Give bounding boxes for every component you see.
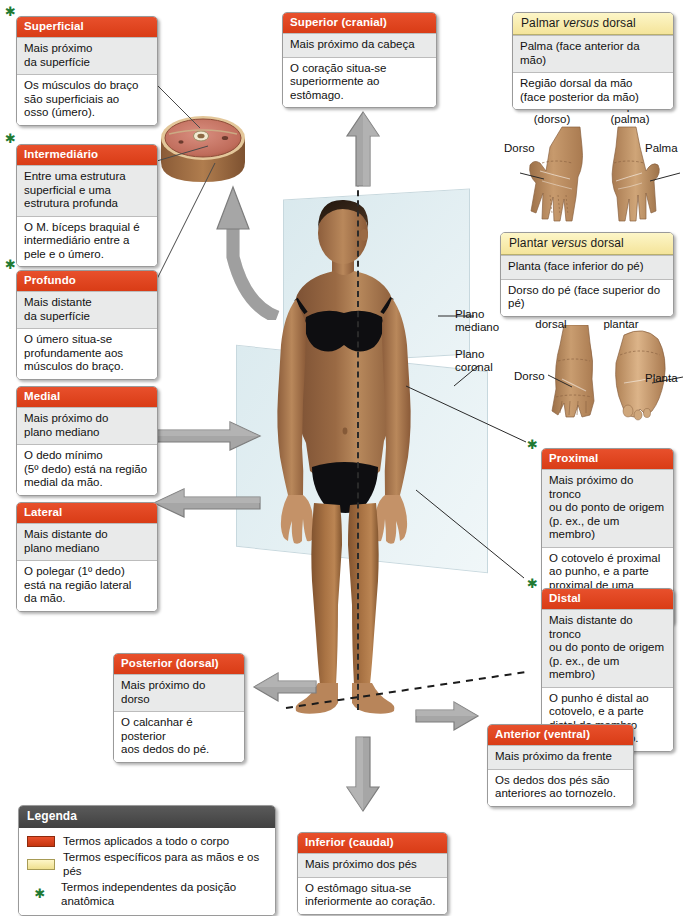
term-row-dorso-pe: Dorso do pé (face superior do pé): [501, 279, 673, 316]
term-box-profundo: Profundo Mais distante da superfície O ú…: [16, 270, 158, 380]
yellow-swatch-icon: [27, 859, 55, 870]
hand-illustrations: [520, 125, 680, 223]
arrow-superior: [345, 110, 381, 188]
term-row-palma: Palma (face anterior da mão): [513, 35, 673, 72]
body-photograph: [262, 195, 422, 725]
label-dorso-pe: Dorso: [514, 370, 545, 383]
term-example-intermediario: O M. bíceps braquial é intermediário ent…: [17, 216, 157, 267]
term-box-posterior: Posterior (dorsal) Mais próximo do dorso…: [113, 653, 245, 763]
term-definition-superior: Mais próximo da cabeça: [283, 33, 436, 57]
term-example-anterior: Os dedos dos pés são anteriores ao torno…: [488, 769, 633, 806]
legend-item-whole-body: Termos aplicados a todo o corpo: [21, 833, 269, 849]
term-title-superficial: Superficial: [17, 17, 157, 37]
palmar-title-post: dorsal: [599, 16, 636, 30]
median-plane-dashed-line: [357, 150, 359, 710]
term-box-anterior: Anterior (ventral) Mais próximo da frent…: [487, 724, 634, 807]
term-title-intermediario: Intermediário: [17, 145, 157, 165]
term-definition-posterior: Mais próximo do dorso: [114, 674, 244, 711]
term-example-superior: O coração situa-se superiormente ao estô…: [283, 57, 436, 108]
legend-label-whole-body: Termos aplicados a todo o corpo: [63, 834, 229, 848]
term-title-medial: Medial: [17, 387, 157, 407]
term-box-superficial: Superficial Mais próximo da superfície O…: [16, 16, 158, 126]
label-dorso-mao: Dorso: [504, 142, 535, 155]
legend-label-hands-feet: Termos específicos para as mãos e os pés: [63, 850, 269, 878]
term-title-inferior: Inferior (caudal): [298, 833, 447, 853]
term-box-medial: Medial Mais próximo do plano mediano O d…: [16, 386, 158, 496]
term-example-inferior: O estômago situa-se inferiormente ao cor…: [298, 877, 447, 914]
term-box-lateral: Lateral Mais distante do plano mediano O…: [16, 502, 158, 612]
term-title-proximal: Proximal: [542, 449, 673, 469]
plantar-title-pre: Plantar: [509, 236, 551, 250]
term-box-palmar-versus-dorsal: Palmar versus dorsal Palma (face anterio…: [512, 12, 674, 110]
term-example-medial: O dedo mínimo (5º dedo) está na região m…: [17, 444, 157, 495]
arrow-medial: [152, 420, 262, 454]
red-swatch-icon: [27, 836, 55, 847]
label-planta-pe: Planta: [645, 372, 678, 385]
star-marker-distal: ✱: [527, 577, 538, 590]
term-title-superior: Superior (cranial): [283, 13, 436, 33]
star-marker-intermediario: ✱: [5, 132, 16, 145]
legend-label-independent-position: Termos independentes da posição anatômic…: [61, 880, 269, 908]
label-plano-mediano: Plano mediano: [455, 308, 499, 334]
term-definition-anterior: Mais próximo da frente: [488, 745, 633, 769]
floor-dashed-lines: [281, 660, 531, 720]
palmar-title-pre: Palmar: [521, 16, 563, 30]
term-title-palmar-versus-dorsal: Palmar versus dorsal: [513, 13, 673, 35]
term-title-distal: Distal: [542, 589, 673, 609]
term-definition-medial: Mais próximo do plano mediano: [17, 407, 157, 444]
term-definition-lateral: Mais distante do plano mediano: [17, 523, 157, 560]
label-plano-coronal: Plano coronal: [455, 348, 493, 374]
term-title-anterior: Anterior (ventral): [488, 725, 633, 745]
arrow-posterior: [252, 671, 318, 705]
term-definition-intermediario: Entre uma estrutura superficial e uma es…: [17, 165, 157, 216]
term-definition-inferior: Mais próximo dos pés: [298, 853, 447, 877]
term-example-lateral: O polegar (1º dedo) está na região later…: [17, 560, 157, 611]
star-marker-proximal: ✱: [527, 438, 538, 451]
term-definition-profundo: Mais distante da superfície: [17, 291, 157, 328]
star-marker-profundo: ✱: [5, 258, 16, 271]
term-example-superficial: Os músculos do braço são superficiais ao…: [17, 74, 157, 125]
term-box-superior: Superior (cranial) Mais próximo da cabeç…: [282, 12, 437, 108]
plantar-title-versus: versus: [551, 236, 587, 250]
term-box-inferior: Inferior (caudal) Mais próximo dos pés O…: [297, 832, 448, 915]
term-box-intermediario: Intermediário Entre uma estrutura superf…: [16, 144, 158, 267]
term-title-plantar-versus-dorsal: Plantar versus dorsal: [501, 233, 673, 255]
term-row-regiao-dorsal-mao: Região dorsal da mão (face posterior da …: [513, 72, 673, 109]
green-star-icon: ✱: [27, 887, 53, 901]
arrow-inferior: [345, 735, 381, 813]
term-example-profundo: O úmero situa-se profundamente aos múscu…: [17, 328, 157, 379]
palmar-title-versus: versus: [563, 16, 599, 30]
legend-item-independent-position: ✱ Termos independentes da posição anatôm…: [21, 879, 269, 909]
term-definition-distal: Mais distante do tronco ou do ponto de o…: [542, 609, 673, 687]
term-title-lateral: Lateral: [17, 503, 157, 523]
star-marker-superficial: ✱: [5, 5, 16, 18]
term-definition-proximal: Mais próximo do tronco ou do ponto de or…: [542, 469, 673, 547]
term-example-posterior: O calcanhar é posterior aos dedos do pé.: [114, 711, 244, 762]
legend-box: Legenda Termos aplicados a todo o corpo …: [18, 805, 276, 916]
term-row-planta: Planta (face inferior do pé): [501, 255, 673, 279]
proximal-distal-leader-lines: [400, 370, 550, 600]
legend-body: Termos aplicados a todo o corpo Termos e…: [19, 828, 275, 915]
arrow-lateral: [152, 487, 262, 521]
arrow-anterior: [414, 700, 480, 734]
term-title-profundo: Profundo: [17, 271, 157, 291]
term-definition-superficial: Mais próximo da superfície: [17, 37, 157, 74]
plantar-title-post: dorsal: [587, 236, 624, 250]
term-title-posterior: Posterior (dorsal): [114, 654, 244, 674]
term-box-plantar-versus-dorsal: Plantar versus dorsal Planta (face infer…: [500, 232, 674, 317]
legend-item-hands-feet: Termos específicos para as mãos e os pés: [21, 849, 269, 879]
label-palma-mao: Palma: [645, 142, 678, 155]
legend-title: Legenda: [19, 806, 275, 828]
